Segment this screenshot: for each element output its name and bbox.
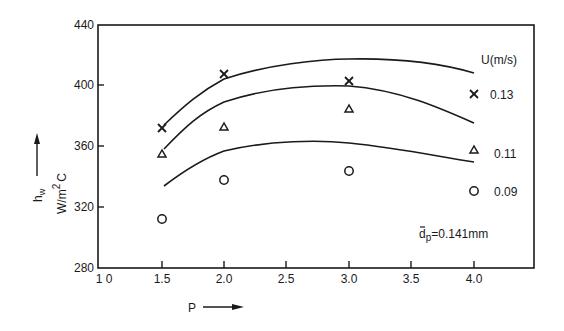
legend-label-0.11: 0.11 <box>494 147 517 161</box>
arrow-up-icon <box>34 133 40 176</box>
x-tick-label: 4.0 <box>466 272 483 286</box>
y-axis-units: W/m2C <box>51 173 69 214</box>
x-marker-icon <box>158 124 166 132</box>
y-tick-label: 440 <box>74 18 94 32</box>
series-0.09-markers <box>158 167 478 223</box>
legend-label-0.13: 0.13 <box>490 88 514 102</box>
y-tick-label: 400 <box>74 78 94 92</box>
y-tick-label: 320 <box>74 200 94 214</box>
x-axis-label: P <box>188 301 196 315</box>
series-0.13-line <box>164 59 474 125</box>
x-marker-icon <box>345 77 353 85</box>
y-axis-label: hw <box>31 188 47 202</box>
x-tick-label: 2.0 <box>216 272 233 286</box>
series-0.13-markers <box>158 70 478 132</box>
x-marker-icon <box>470 90 478 98</box>
legend-title: U(m/s) <box>481 53 517 67</box>
x-tick-label: 1.5 <box>154 272 171 286</box>
circle-marker-icon <box>220 176 228 184</box>
triangle-marker-icon <box>220 123 228 130</box>
x-tick-label: 3.0 <box>341 272 358 286</box>
data-curves <box>164 59 474 186</box>
y-tick-label: 360 <box>74 139 94 153</box>
x-marker-icon <box>220 70 228 78</box>
particle-diameter-annotation: dp=0.141mm <box>419 227 488 243</box>
chart-canvas: 440 400 360 320 280 1 0 1.5 2.0 2.5 3.0 … <box>0 0 564 331</box>
legend-label-0.09: 0.09 <box>494 185 518 199</box>
series-0.09-line <box>164 141 474 186</box>
circle-marker-icon <box>345 167 353 175</box>
x-tick-label: 3.5 <box>403 272 420 286</box>
svg-text:dp=0.141mm: dp=0.141mm <box>419 227 488 243</box>
svg-text:hw: hw <box>31 188 47 202</box>
x-tick-label: 2.5 <box>278 272 295 286</box>
circle-marker-icon <box>470 187 478 195</box>
triangle-marker-icon <box>345 105 353 112</box>
triangle-marker-icon <box>470 146 478 153</box>
y-axis <box>98 85 104 207</box>
triangle-marker-icon <box>158 150 166 157</box>
x-tick-label: 1 0 <box>96 272 113 286</box>
arrow-right-icon <box>203 304 244 310</box>
y-tick-label: 280 <box>74 261 94 275</box>
series-0.11-line <box>164 86 474 149</box>
x-axis <box>162 261 474 268</box>
circle-marker-icon <box>158 215 166 223</box>
svg-text:W/m2C: W/m2C <box>51 173 69 214</box>
